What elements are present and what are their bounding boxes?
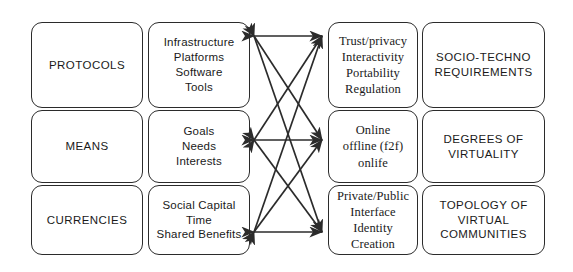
connector-c-r2-r3	[254, 140, 322, 232]
matrix-cell-r2c1: MEANS	[31, 110, 143, 183]
matrix-cell-text: Private/PublicInterfaceIdentity Creation	[329, 188, 417, 253]
connector-c-r3-r2	[254, 140, 322, 232]
matrix-cell-r1c2: InfrastructurePlatformsSoftwareTools	[148, 22, 250, 108]
connector-c-r1-r2	[254, 36, 322, 140]
connector-c-r1-r3	[254, 36, 322, 232]
matrix-cell-text: DEGREES OFVIRTUALITY	[440, 132, 528, 162]
matrix-cell-text: Onlineoffline (f2f)onlife	[339, 122, 407, 171]
matrix-cell-text: InfrastructurePlatformsSoftwareTools	[160, 35, 239, 95]
matrix-cell-text: GoalsNeedsInterests	[172, 124, 226, 169]
matrix-cell-r2c3: Onlineoffline (f2f)onlife	[328, 110, 418, 183]
matrix-cell-r3c4: TOPOLOGY OFVIRTUALCOMMUNITIES	[422, 185, 545, 255]
matrix-cell-r2c4: DEGREES OFVIRTUALITY	[422, 110, 545, 183]
matrix-cell-text: TOPOLOGY OFVIRTUALCOMMUNITIES	[435, 198, 531, 243]
matrix-cell-r1c1: PROTOCOLS	[31, 22, 143, 108]
matrix-cell-text: PROTOCOLS	[45, 58, 129, 73]
matrix-cell-r1c3: Trust/privacyInteractivityPortabilityReg…	[328, 22, 418, 108]
matrix-cell-text: Social CapitalTimeShared Benefits	[153, 198, 246, 243]
matrix-cell-r3c1: CURRENCIES	[31, 185, 143, 255]
matrix-cell-text: CURRENCIES	[43, 213, 132, 228]
connector-c-r3-r1	[254, 36, 322, 232]
diagram-canvas: PROTOCOLS InfrastructurePlatformsSoftwar…	[0, 0, 573, 272]
matrix-cell-text: MEANS	[61, 139, 112, 154]
matrix-cell-r1c4: SOCIO-TECHNOREQUIREMENTS	[422, 22, 545, 108]
connector-c-r2-r1	[254, 36, 322, 140]
matrix-cell-text: SOCIO-TECHNOREQUIREMENTS	[430, 50, 536, 80]
matrix-cell-text: Trust/privacyInteractivityPortabilityReg…	[335, 33, 411, 98]
matrix-cell-r3c3: Private/PublicInterfaceIdentity Creation	[328, 185, 418, 255]
matrix-cell-r2c2: GoalsNeedsInterests	[148, 110, 250, 183]
matrix-cell-r3c2: Social CapitalTimeShared Benefits	[148, 185, 250, 255]
